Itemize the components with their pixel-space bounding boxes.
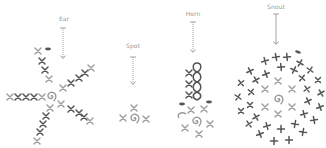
horn-diagram	[178, 63, 213, 137]
snout-arrow	[273, 14, 279, 45]
ear-diagram	[7, 48, 94, 144]
horn-arrow	[190, 22, 196, 53]
spot-arrow	[130, 57, 136, 85]
crochet-diagrams	[0, 0, 326, 148]
spot-diagram	[120, 105, 149, 123]
snout-diagram	[233, 50, 326, 145]
ear-arrow	[60, 28, 66, 59]
arrows	[60, 14, 279, 85]
